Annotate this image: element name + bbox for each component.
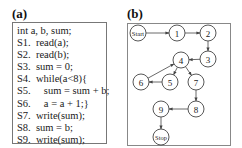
node-4: 4 <box>173 52 189 68</box>
node-label: 1 <box>175 29 180 39</box>
node-8: 8 <box>188 101 204 117</box>
node-5: 5 <box>162 74 178 90</box>
node-label: 2 <box>206 29 211 39</box>
node-start: Start <box>130 25 146 41</box>
node-9: 9 <box>153 101 169 117</box>
node-2: 2 <box>200 25 216 41</box>
node-label: 6 <box>139 78 144 88</box>
graph-nodes: Start123456789Stop <box>130 25 216 145</box>
node-1: 1 <box>169 25 185 41</box>
node-7: 7 <box>188 74 204 90</box>
node-label: 5 <box>168 78 173 88</box>
node-label: Start <box>132 30 144 37</box>
edge-4-to-7 <box>186 67 192 76</box>
node-label: 8 <box>194 105 199 115</box>
node-label: 3 <box>206 55 211 65</box>
node-stop: Stop <box>153 129 169 145</box>
node-6: 6 <box>133 74 149 90</box>
edge-4-to-5 <box>174 67 178 75</box>
node-label: 9 <box>159 105 164 115</box>
control-flow-graph: Start123456789Stop <box>0 0 242 148</box>
node-label: Stop <box>155 134 167 141</box>
node-label: 7 <box>194 78 199 88</box>
node-label: 4 <box>179 56 184 66</box>
node-3: 3 <box>200 51 216 67</box>
